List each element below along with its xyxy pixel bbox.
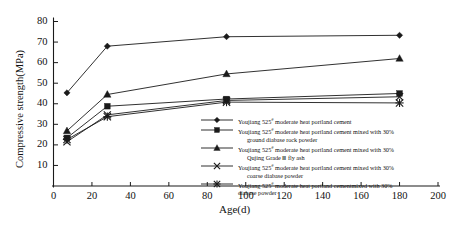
x-tick-label: 100 xyxy=(233,191,259,201)
legend-marker-triangle-icon xyxy=(200,144,234,152)
legend-label-line1: Youjiang 525# moderate heat portland cem… xyxy=(238,182,392,189)
data-point-asterisk xyxy=(103,113,111,121)
y-tick-label: 30 xyxy=(26,119,48,129)
x-tick-label: 200 xyxy=(425,191,451,201)
data-point-triangle xyxy=(214,145,220,151)
data-point-asterisk xyxy=(395,99,403,107)
legend-label: Youjiang 525# moderate heat portland cem… xyxy=(238,162,394,179)
legend-label-superscript: # xyxy=(271,117,273,122)
data-point-diamond xyxy=(104,43,110,49)
data-point-x xyxy=(104,111,111,118)
x-axis-title: Age(d) xyxy=(219,203,250,215)
y-tick-label: 60 xyxy=(26,57,48,67)
series-0 xyxy=(64,32,403,96)
data-point-square xyxy=(397,91,403,97)
data-point-square xyxy=(104,103,110,109)
legend-label-line2: coarse diabase powder xyxy=(238,172,394,180)
legend-item: Youjiang 525# moderate heat portland cem… xyxy=(200,126,394,143)
x-tick-label: 180 xyxy=(387,191,413,201)
x-tick-label: 60 xyxy=(156,191,182,201)
legend-label: Youjiang 525# moderate heat portland cem… xyxy=(238,116,394,126)
x-tick-label: 80 xyxy=(194,191,220,201)
y-axis-title: Compressive strength(MPa) xyxy=(14,50,25,168)
data-point-diamond xyxy=(223,34,229,40)
chart-legend: Youjiang 525# moderate heat portland cem… xyxy=(200,116,394,198)
y-tick-label: 80 xyxy=(26,16,48,26)
data-point-diamond xyxy=(64,90,70,96)
y-tick-label: 40 xyxy=(26,98,48,108)
legend-marker-asterisk-icon xyxy=(200,180,234,188)
data-point-diamond xyxy=(396,32,402,38)
data-point-asterisk xyxy=(213,180,220,187)
legend-label-line1: Youjiang 525# moderate heat portland cem… xyxy=(238,118,352,125)
data-point-x xyxy=(223,97,230,104)
x-tick-label: 40 xyxy=(117,191,143,201)
data-point-x xyxy=(396,93,403,100)
x-tick-label: 0 xyxy=(41,191,67,201)
y-tick-label: 20 xyxy=(26,139,48,149)
x-tick-label: 140 xyxy=(310,191,336,201)
legend-marker-x-icon xyxy=(200,162,234,170)
data-point-square xyxy=(64,135,70,141)
legend-label-superscript: # xyxy=(271,163,273,168)
legend-label-line1: Youjiang 525# moderate heat portland cem… xyxy=(238,128,394,135)
data-point-asterisk xyxy=(63,135,71,143)
data-point-x xyxy=(63,138,70,145)
y-tick-label: 10 xyxy=(26,160,48,170)
y-tick-label: 70 xyxy=(26,37,48,47)
x-tick-label: 160 xyxy=(348,191,374,201)
legend-label-line2: ground diabase rock powder xyxy=(238,136,394,144)
y-tick-label: 50 xyxy=(26,78,48,88)
data-point-triangle xyxy=(63,127,70,134)
data-point-triangle xyxy=(223,70,230,77)
data-point-square xyxy=(224,96,230,102)
legend-label: Youjiang 525# moderate heat portland cem… xyxy=(238,144,394,161)
legend-label-line2: Qujing Grade Ⅲ fly ash xyxy=(238,154,394,162)
legend-label-superscript: # xyxy=(271,145,273,150)
legend-item: Youjiang 525# moderate heat portland cem… xyxy=(200,116,394,126)
chart-figure: Compressive strength(MPa) Age(d) Youjian… xyxy=(0,0,455,238)
data-point-asterisk xyxy=(222,98,230,106)
series-line xyxy=(67,35,400,93)
legend-marker-square-icon xyxy=(200,126,234,134)
legend-label-superscript: # xyxy=(271,127,273,132)
legend-marker-diamond-icon xyxy=(200,116,234,124)
data-point-diamond xyxy=(214,117,219,122)
x-tick-label: 20 xyxy=(79,191,105,201)
data-point-triangle xyxy=(396,55,403,62)
legend-label-line1: Youjiang 525# moderate heat portland cem… xyxy=(238,164,394,171)
legend-label-line1: Youjiang 525# moderate heat portland cem… xyxy=(238,146,394,153)
legend-item: Youjiang 525# moderate heat portland cem… xyxy=(200,144,394,161)
x-tick-label: 120 xyxy=(271,191,297,201)
data-point-triangle xyxy=(104,91,111,98)
legend-label: Youjiang 525# moderate heat portland cem… xyxy=(238,126,394,143)
legend-label-superscript: # xyxy=(271,181,273,186)
legend-item: Youjiang 525# moderate heat portland cem… xyxy=(200,162,394,179)
data-point-square xyxy=(215,128,220,133)
